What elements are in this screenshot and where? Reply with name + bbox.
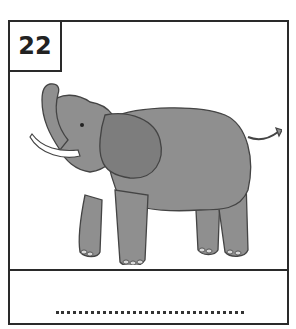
flashcard: 22 [8, 20, 289, 325]
answer-blank-line[interactable] [56, 308, 244, 314]
elephant-illustration [20, 80, 282, 265]
picture-area: 22 [10, 22, 287, 271]
answer-area[interactable] [10, 271, 287, 323]
card-number: 22 [10, 22, 62, 72]
